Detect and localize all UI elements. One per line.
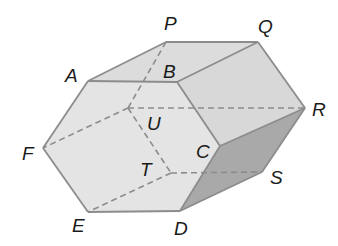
vertex-label-B: B xyxy=(163,61,176,82)
edge-DE xyxy=(88,211,180,212)
vertex-label-E: E xyxy=(72,215,85,236)
vertex-label-U: U xyxy=(147,113,161,134)
vertex-label-A: A xyxy=(64,65,78,86)
vertex-label-D: D xyxy=(174,218,188,239)
vertex-label-Q: Q xyxy=(258,16,273,37)
vertex-label-C: C xyxy=(196,141,210,162)
vertex-label-F: F xyxy=(22,143,35,164)
prism-figure: ABCDEFPQRSTU xyxy=(0,0,338,246)
vertex-label-P: P xyxy=(164,13,177,34)
hexagonal-prism-diagram: ABCDEFPQRSTU xyxy=(0,0,338,246)
vertex-label-S: S xyxy=(270,167,283,188)
vertex-label-R: R xyxy=(312,99,326,120)
vertex-label-T: T xyxy=(140,159,153,180)
